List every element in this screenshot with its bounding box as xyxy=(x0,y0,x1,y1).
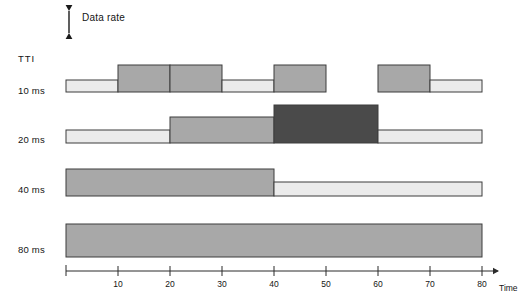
axis-caption-time: Time xyxy=(499,283,518,293)
diagram-canvas: TTI Data rate 10 ms 20 ms 40 ms 80 ms 10… xyxy=(0,0,530,299)
arrow-head-up-icon xyxy=(66,5,73,11)
axis-tick-label: 10 xyxy=(113,279,122,289)
axis-tick-label: 80 xyxy=(477,279,486,289)
row-label-10ms: 10 ms xyxy=(18,86,45,96)
bar-segment xyxy=(378,130,482,143)
axis-tick-label: 30 xyxy=(217,279,226,289)
row-label-80ms: 80 ms xyxy=(18,245,45,255)
tti-heading: TTI xyxy=(18,54,35,64)
bar-segment xyxy=(274,182,482,196)
bar-segment xyxy=(222,80,274,92)
bar-segment xyxy=(378,65,430,92)
bar-segment xyxy=(118,65,170,92)
axis-tick-label: 20 xyxy=(165,279,174,289)
bar-segment xyxy=(430,80,482,92)
arrow-head-down-icon xyxy=(66,33,73,39)
bar-segment xyxy=(170,65,222,92)
bar-segment xyxy=(66,224,482,257)
axis-tick-label: 50 xyxy=(321,279,330,289)
row-label-20ms: 20 ms xyxy=(18,135,45,145)
time-axis xyxy=(66,265,499,276)
bar-segment xyxy=(274,65,326,92)
bar-segment xyxy=(66,169,274,196)
tti-data-rate-diagram xyxy=(0,0,530,299)
bar-segment xyxy=(66,80,118,92)
axis-tick-label: 70 xyxy=(425,279,434,289)
bar-segment xyxy=(66,130,170,143)
bars-layer xyxy=(66,65,482,257)
axis-arrowhead-icon xyxy=(493,268,499,274)
bar-segment xyxy=(170,117,274,143)
row-label-40ms: 40 ms xyxy=(18,185,45,195)
bar-segment xyxy=(274,105,378,143)
axis-tick-label: 60 xyxy=(373,279,382,289)
axis-tick-label: 40 xyxy=(269,279,278,289)
data-rate-label: Data rate xyxy=(82,13,125,23)
data-rate-arrow-icon xyxy=(66,5,73,39)
